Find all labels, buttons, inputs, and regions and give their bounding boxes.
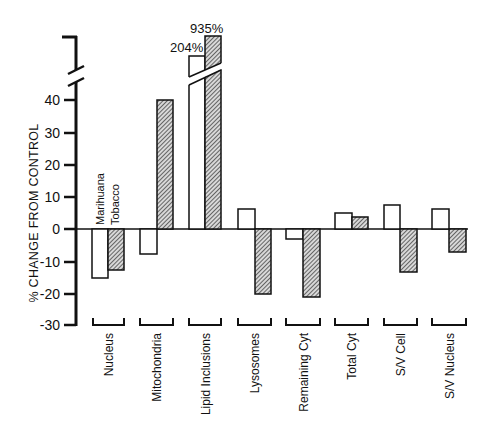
category-mitochondria: Mitochondria xyxy=(150,333,164,402)
bar-nucleus-tobacco xyxy=(108,229,124,270)
category-sv-nucleus: S/V Nucleus xyxy=(443,333,457,399)
bars xyxy=(92,36,466,297)
y-tick-minus10: -10 xyxy=(40,254,60,270)
bar-lysosomes-tobacco xyxy=(255,229,271,294)
category-lipid-inclusions: Lipid Inclusions xyxy=(199,333,213,415)
bar-nucleus-marihuana xyxy=(92,229,108,278)
y-axis-label: % CHANGE FROM CONTROL xyxy=(27,123,41,302)
bar-chart: 40 30 20 10 0 -10 -20 -30 % CHANGE FROM … xyxy=(0,0,490,445)
y-axis: 40 30 20 10 0 -10 -20 -30 % CHANGE FROM … xyxy=(27,36,84,333)
y-tick-20: 20 xyxy=(44,157,60,173)
bar-mitochondria-marihuana xyxy=(140,229,157,254)
bar-sv-nucleus-tobacco xyxy=(449,229,466,252)
bar-mitochondria-tobacco xyxy=(157,100,173,229)
category-sv-cell: S/V Cell xyxy=(394,333,408,376)
bar-sv-nucleus-marihuana xyxy=(432,209,449,229)
annotation-204: 204% xyxy=(170,40,204,55)
legend-tobacco: Tobacco xyxy=(109,184,121,225)
bar-remaining-cyt-tobacco xyxy=(303,229,320,297)
bar-lysosomes-marihuana xyxy=(238,209,255,229)
bar-sv-cell-marihuana xyxy=(384,205,400,229)
y-tick-minus20: -20 xyxy=(40,286,60,302)
y-tick-10: 10 xyxy=(44,189,60,205)
y-tick-minus30: -30 xyxy=(40,317,60,333)
bar-remaining-cyt-marihuana xyxy=(286,229,303,239)
bar-total-cyt-tobacco xyxy=(352,217,368,229)
legend-marihuana: Marihuana xyxy=(94,172,106,225)
category-nucleus: Nucleus xyxy=(102,333,116,376)
category-remaining-cyt: Remaining Cyt xyxy=(297,332,311,411)
annotation-935: 935% xyxy=(190,21,224,36)
y-tick-0: 0 xyxy=(52,221,60,237)
y-tick-30: 30 xyxy=(44,125,60,141)
category-lysosomes: Lysosomes xyxy=(248,333,262,393)
bar-total-cyt-marihuana xyxy=(335,213,352,229)
category-brackets xyxy=(93,318,466,325)
y-tick-40: 40 xyxy=(44,92,60,108)
bar-sv-cell-tobacco xyxy=(400,229,417,272)
category-total-cyt: Total Cyt xyxy=(345,332,359,379)
